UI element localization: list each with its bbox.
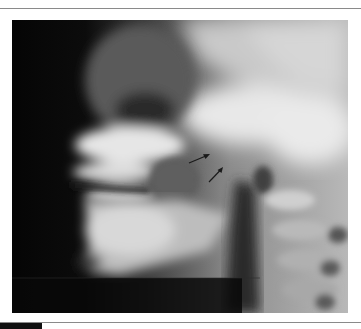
- top-rule: [0, 8, 361, 9]
- corner-marker: [0, 323, 42, 329]
- bottom-rule: [0, 322, 361, 323]
- radiograph-image: [12, 20, 348, 313]
